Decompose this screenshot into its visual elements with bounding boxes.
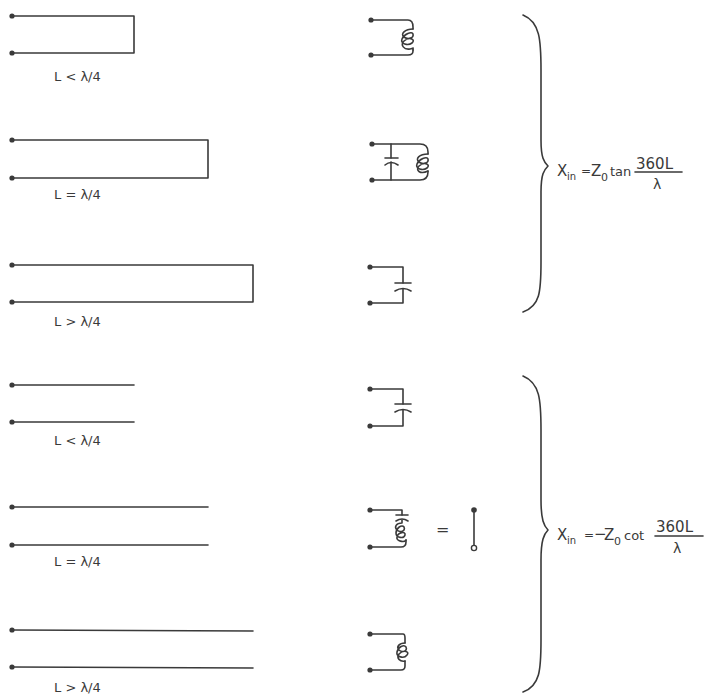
curly-brace: [523, 376, 548, 692]
formula-z-sub: 0: [601, 171, 608, 184]
parallel-lc-symbol: [369, 141, 428, 182]
terminal-dot: [9, 13, 14, 18]
formula-lhs: X: [557, 162, 567, 180]
terminal-dot: [9, 262, 14, 267]
formula-z: Z: [604, 526, 614, 544]
length-label: L = λ/4: [54, 554, 101, 569]
inductor-symbol: [367, 631, 407, 672]
capacitor-symbol: [367, 264, 411, 305]
length-label: L > λ/4: [54, 680, 101, 695]
open-line-long: L > λ/4: [9, 627, 253, 695]
length-label: L < λ/4: [54, 433, 101, 448]
line-conductors: [12, 265, 253, 302]
formula-equals: =: [584, 528, 594, 542]
formula-z-sub: 0: [614, 535, 621, 548]
open-line-quarter-wave: L = λ/4: [9, 504, 208, 569]
terminal-dot: [9, 137, 14, 142]
formula-lhs: X: [557, 526, 567, 544]
shorted-line-quarter-wave: L = λ/4: [9, 137, 208, 202]
shorted-line-long: L > λ/4: [9, 262, 253, 329]
terminal-dot: [9, 299, 14, 304]
terminal-dot: [9, 50, 14, 55]
shorted-lines-group: L < λ/4 L = λ/4 L > λ/4: [9, 13, 682, 329]
short-circuit-symbol: [471, 507, 477, 550]
inductor-symbol: [368, 17, 413, 57]
line-conductors: [12, 140, 208, 178]
open-line-short: L < λ/4: [9, 382, 134, 448]
capacitor-symbol: [367, 386, 411, 428]
formula-cot: X in = − Z 0 cot 360L λ: [557, 518, 703, 556]
series-lc-symbol: [367, 507, 408, 549]
transmission-line-diagram: L < λ/4 L = λ/4 L > λ/4: [0, 0, 707, 699]
length-label: L > λ/4: [54, 314, 101, 329]
equals-sign: =: [436, 520, 449, 539]
formula-tan: X in = Z 0 tan 360L λ: [557, 155, 682, 192]
formula-func: tan: [610, 164, 631, 179]
shorted-line-short: L < λ/4: [9, 13, 134, 84]
length-label: L = λ/4: [54, 187, 101, 202]
formula-numerator: 360L: [656, 518, 694, 536]
formula-z: Z: [591, 162, 601, 180]
length-label: L < λ/4: [54, 69, 101, 84]
open-lines-group: L < λ/4 L = λ/4 L > λ/4: [9, 376, 703, 695]
formula-lhs-sub: in: [567, 535, 576, 546]
formula-func: cot: [624, 528, 644, 543]
line-conductors: [12, 16, 134, 53]
formula-denominator: λ: [673, 540, 681, 556]
terminal-dot: [9, 175, 14, 180]
formula-lhs-sub: in: [567, 171, 576, 182]
formula-denominator: λ: [653, 176, 661, 192]
formula-equals: =: [581, 164, 591, 178]
formula-numerator: 360L: [636, 155, 674, 173]
curly-brace: [523, 15, 548, 312]
